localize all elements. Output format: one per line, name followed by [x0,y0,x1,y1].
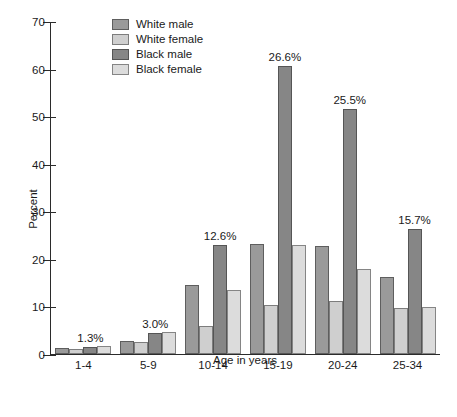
bar-group: 1.3%1-4 [51,22,116,354]
bar-group: 12.6%10-14 [181,22,246,354]
bar-bf-15-19[interactable] [292,245,306,354]
bar-bf-5-9[interactable] [162,332,176,354]
y-tick-label: 10 [32,301,45,313]
y-tick-label: 70 [32,16,45,28]
bar-wm-15-19[interactable] [250,244,264,354]
x-axis-title: Age in years [50,354,440,366]
bar-bm-20-24[interactable]: 25.5% [343,109,357,354]
bar-value-label: 12.6% [204,230,237,242]
bar-wf-20-24[interactable] [329,301,343,354]
bar-bf-10-14[interactable] [227,290,241,354]
bar-group: 26.6%15-19 [245,22,310,354]
bar-bf-20-24[interactable] [357,269,371,354]
bar-wm-10-14[interactable] [185,285,199,354]
bar-chart-figure: Percent White male White female Black ma… [0,0,457,417]
bar-value-label: 1.3% [77,332,103,344]
bar-wm-25-34[interactable] [380,277,394,354]
y-tick-label: 60 [32,64,45,76]
y-tick-label: 20 [32,254,45,266]
bar-group: 15.7%25-34 [375,22,440,354]
bar-value-label: 26.6% [269,51,302,63]
bar-wf-25-34[interactable] [394,308,408,354]
y-tick-label: 50 [32,111,45,123]
bar-bm-25-34[interactable]: 15.7% [408,229,422,354]
y-tick-label: 40 [32,159,45,171]
y-tick-label: 30 [32,206,45,218]
bar-bf-25-34[interactable] [422,307,436,354]
bar-wf-5-9[interactable] [134,342,148,354]
bar-value-label: 3.0% [142,318,168,330]
bar-bm-1-4[interactable]: 1.3% [83,347,97,354]
plot-area: 010203040506070 1.3%1-43.0%5-912.6%10-14… [50,22,440,355]
bar-wf-15-19[interactable] [264,305,278,354]
bar-wm-5-9[interactable] [120,341,134,354]
bar-group: 3.0%5-9 [116,22,181,354]
bar-value-label: 15.7% [398,214,431,226]
bar-wf-10-14[interactable] [199,326,213,354]
bar-bm-15-19[interactable]: 26.6% [278,66,292,354]
bar-wm-20-24[interactable] [315,246,329,354]
y-tick-label: 0 [39,349,46,361]
bar-bm-5-9[interactable]: 3.0% [148,333,162,354]
bar-bf-1-4[interactable] [97,346,111,354]
bar-bm-10-14[interactable]: 12.6% [213,245,227,354]
bar-value-label: 25.5% [333,94,366,106]
bar-groups: 1.3%1-43.0%5-912.6%10-1426.6%15-1925.5%2… [51,22,440,354]
bar-group: 25.5%20-24 [310,22,375,354]
